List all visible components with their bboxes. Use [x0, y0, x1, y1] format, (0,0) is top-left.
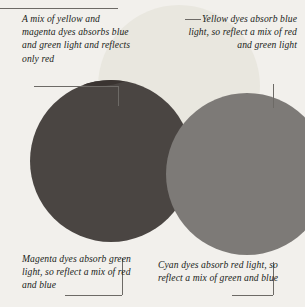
caption-cyan-dyes: Cyan dyes absorb red light, so reflect a… — [158, 258, 290, 284]
caption-yellow-dyes: Yellow dyes absorb blue light, so reflec… — [185, 12, 297, 52]
leader-line-red-horizontal — [34, 86, 118, 87]
leader-line-red-vertical — [118, 86, 119, 106]
leader-line-cyan-horizontal — [232, 295, 273, 296]
color-mixing-diagram: A mix of yellow and magenta dyes absorbs… — [0, 0, 305, 307]
leader-line-magenta-horizontal — [65, 295, 122, 296]
caption-magenta-dyes: Magenta dyes absorb green light, so refl… — [22, 252, 134, 292]
leader-line-top-rule — [0, 8, 118, 9]
leader-line-yellow-vertical — [273, 84, 274, 108]
caption-red-mix: A mix of yellow and magenta dyes absorbs… — [22, 12, 132, 65]
